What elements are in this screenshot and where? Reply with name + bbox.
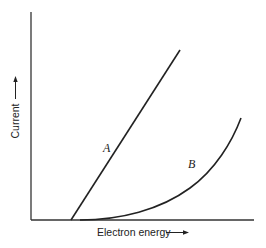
series-b-label: B bbox=[188, 157, 196, 171]
y-axis-label-group: Current bbox=[9, 103, 21, 138]
y-axis-arrow-icon bbox=[13, 76, 17, 99]
series-a-label: A bbox=[102, 141, 111, 155]
y-axis-label: Current bbox=[9, 103, 21, 138]
x-axis-label: Electron energy bbox=[97, 226, 171, 238]
chart: Current Electron energy A B bbox=[0, 0, 266, 248]
series-a-line bbox=[71, 50, 180, 220]
